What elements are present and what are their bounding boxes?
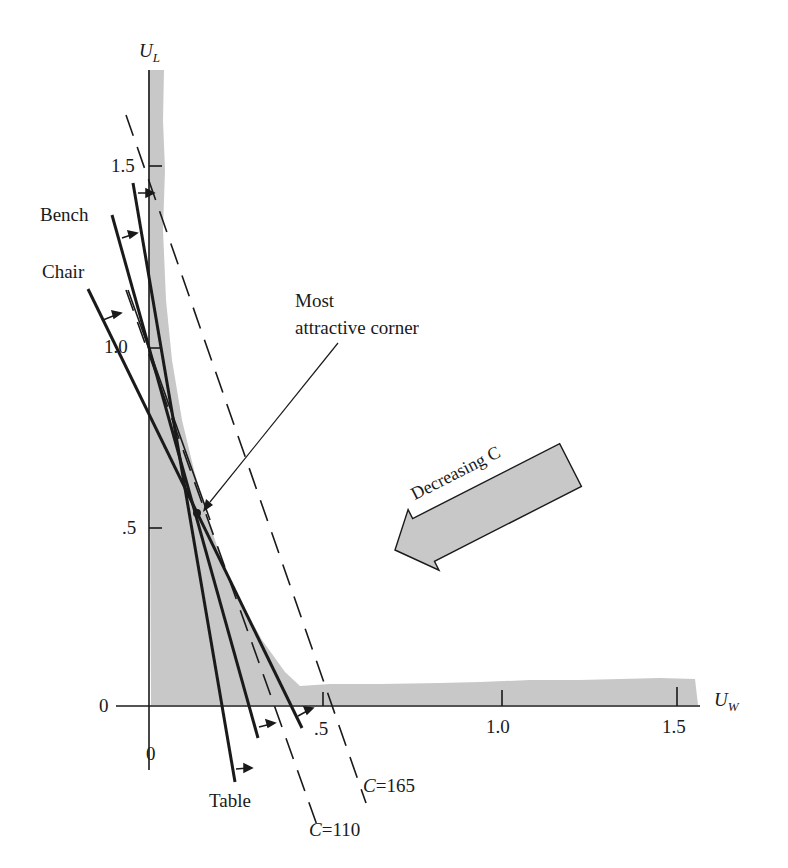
lp-diagram [0, 0, 788, 868]
c165-var: C [363, 775, 376, 796]
most-attractive-corner-point [193, 509, 201, 517]
y-tick-label-05: .5 [122, 518, 136, 537]
bench-bottom-arrow [259, 720, 275, 727]
corner-pointer-line [210, 343, 338, 502]
most-attractive-corner-line1: Most [295, 291, 334, 310]
x-axis-label-main: U [714, 689, 728, 710]
c110-val: =110 [322, 819, 361, 840]
c165-val: =165 [376, 775, 415, 796]
chair-direction-arrow [103, 311, 121, 320]
x-tick-label-05: .5 [314, 719, 328, 738]
x-tick-label-15: 1.5 [662, 717, 686, 736]
x-axis-label: UW [714, 690, 739, 709]
bench-label: Bench [40, 205, 89, 224]
y-axis-label-main: U [139, 40, 153, 61]
feasible-region-boundary [148, 70, 698, 705]
y-tick-label-10: 1.0 [104, 337, 128, 356]
chair-label: Chair [42, 262, 84, 281]
c110-label: C=110 [309, 820, 360, 839]
most-attractive-corner-line2: attractive corner [295, 318, 419, 337]
x-axis-label-sub: W [728, 699, 739, 714]
y-tick-label-15: 1.5 [111, 156, 135, 175]
y-tick-label-0: 0 [99, 696, 109, 715]
chair-bottom-arrow [298, 707, 313, 716]
y-axis-label-sub: L [153, 50, 160, 65]
c110-var: C [309, 819, 322, 840]
bench-direction-arrow [122, 231, 137, 238]
x-tick-label-10: 1.0 [486, 717, 510, 736]
table-label: Table [209, 791, 251, 810]
table-bottom-arrow [236, 764, 252, 772]
y-axis-label: UL [139, 41, 160, 60]
c165-label: C=165 [363, 776, 415, 795]
x-tick-label-0: 0 [146, 744, 156, 763]
